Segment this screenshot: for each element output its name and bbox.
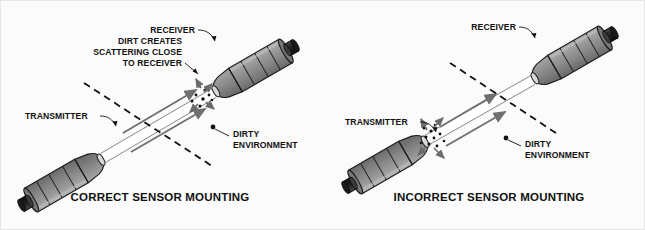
transmitter-label-text: TRANSMITTER xyxy=(345,117,408,127)
sensor-mounting-diagram: RECEIVER TRANSMITTER DIRT CREATES SCATTE… xyxy=(0,0,645,230)
dirt-note-line2: SCATTERING CLOSE xyxy=(93,47,182,57)
dirty-environment-line2: ENVIRONMENT xyxy=(233,140,298,150)
dirty-environment-line2: ENVIRONMENT xyxy=(525,150,590,160)
dirt-note-line1: DIRT CREATES xyxy=(118,36,182,46)
dirty-environment-line1: DIRTY xyxy=(525,139,551,149)
receiver-label-text: RECEIVER xyxy=(471,22,516,32)
dirty-environment-line1: DIRTY xyxy=(233,129,259,139)
caption-incorrect: INCORRECT SENSOR MOUNTING xyxy=(394,191,585,203)
transmitter-label-text: TRANSMITTER xyxy=(25,111,88,121)
dirty-environment-dot xyxy=(504,136,509,141)
dirt-note-line3: TO RECEIVER xyxy=(123,58,183,68)
dirty-environment-dot xyxy=(211,125,216,130)
receiver-label-text: RECEIVER xyxy=(150,25,195,35)
caption-correct: CORRECT SENSOR MOUNTING xyxy=(70,191,249,203)
